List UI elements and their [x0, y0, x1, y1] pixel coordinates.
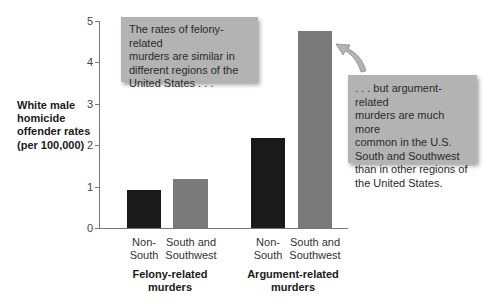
x-category-line: Non-: [124, 236, 164, 249]
x-group-line: murders: [120, 281, 220, 294]
x-category-line: South: [248, 249, 288, 262]
x-axis-line: [99, 228, 348, 229]
bar-felony-south: [173, 179, 208, 228]
annotation-line: murders are similar in: [129, 50, 250, 64]
annotation-line: The rates of felony-related: [129, 23, 250, 50]
y-tick-label: 4: [73, 56, 93, 68]
x-group-label: Felony-related murders: [120, 268, 220, 294]
y-tick: [95, 104, 100, 105]
x-category-label: South and Southwest: [160, 236, 222, 262]
y-axis-line: [99, 21, 100, 229]
bar-argument-south: [298, 31, 332, 228]
y-tick: [95, 228, 100, 229]
y-tick-label: 0: [73, 222, 93, 234]
y-tick: [95, 187, 100, 188]
curved-arrow-icon: [330, 36, 375, 76]
bar-felony-non-south: [127, 190, 161, 228]
x-category-label: Non- South: [248, 236, 288, 262]
y-tick: [95, 21, 100, 22]
x-group-line: Felony-related: [120, 268, 220, 281]
x-category-line: South and: [160, 236, 222, 249]
annotation-line: . . . but argument-related: [355, 82, 470, 109]
annotation-line: murders are much more: [355, 109, 470, 136]
annotation-line: the United States.: [355, 177, 470, 191]
annotation-felony: The rates of felony-related murders are …: [121, 17, 258, 82]
annotation-line: common in the U.S.: [355, 136, 470, 150]
annotation-argument: . . . but argument-related murders are m…: [348, 75, 477, 163]
x-category-line: South: [124, 249, 164, 262]
x-category-label: Non- South: [124, 236, 164, 262]
x-group-line: Argument-related: [238, 268, 348, 281]
y-axis-label-line: offender rates: [17, 125, 90, 138]
x-category-line: Non-: [248, 236, 288, 249]
y-axis-label-line: homicide: [17, 112, 90, 125]
y-tick-label: 1: [73, 181, 93, 193]
x-category-line: Southwest: [160, 249, 222, 262]
y-tick: [95, 62, 100, 63]
annotation-line: South and Southwest: [355, 150, 470, 164]
annotation-line: than in other regions of: [355, 163, 470, 177]
bar-argument-non-south: [251, 138, 285, 228]
x-group-label: Argument-related murders: [238, 268, 348, 294]
x-category-label: South and Southwest: [284, 236, 346, 262]
y-tick-label: 3: [73, 98, 93, 110]
annotation-line: United States . . .: [129, 77, 250, 91]
x-category-line: Southwest: [284, 249, 346, 262]
y-tick-label: 2: [73, 139, 93, 151]
y-tick-label: 5: [73, 15, 93, 27]
x-category-line: South and: [284, 236, 346, 249]
x-group-line: murders: [238, 281, 348, 294]
annotation-line: different regions of the: [129, 64, 250, 78]
y-tick: [95, 145, 100, 146]
